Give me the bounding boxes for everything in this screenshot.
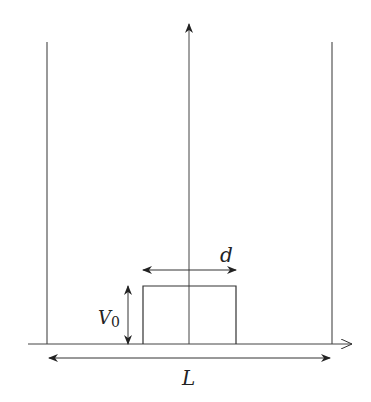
well-width-label: L <box>181 366 195 390</box>
diagram-canvas: d V0 L <box>0 0 371 402</box>
barrier-height-label: V0 <box>98 307 120 330</box>
barrier-width-label: d <box>220 243 233 267</box>
